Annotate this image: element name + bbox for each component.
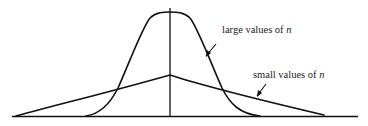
label-large-n: large values of n [222,24,292,35]
distribution-diagram: large values of n small values of n [0,0,368,126]
label-small-n: small values of n [253,69,324,80]
arrow-large-n [206,44,216,57]
arrow-small-n [257,84,266,97]
